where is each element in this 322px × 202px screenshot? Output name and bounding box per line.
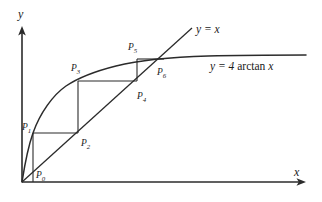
point-label-p0: P0 [35,170,46,182]
figure-container: y x y = x y = 4 arctan x P0 P1 P2 P3 P4 [0,0,322,202]
curve-equation-function: arctan [237,60,265,72]
diagonal-equation-label: y = x [195,23,221,36]
curve-equation-lhs: y = 4 [209,60,237,73]
curve-equation-rhs: x [265,60,274,72]
point-label-p5: P5 [127,42,138,54]
x-axis-label: x [293,165,300,179]
point-label-p6-subscript: 6 [163,72,167,79]
point-label-p4: P4 [136,91,147,103]
point-label-p6: P6 [156,67,167,79]
point-label-p5-subscript: 5 [134,47,138,54]
y-axis-label: y [17,7,24,21]
point-label-p1: P1 [21,122,31,134]
point-label-p4-subscript: 4 [143,96,147,103]
point-label-p0-subscript: 0 [42,175,46,182]
point-label-p3: P3 [70,63,81,75]
curve-equation-label: y = 4 arctan x [209,60,274,73]
axes-group [18,26,306,186]
cobweb-diagram: y x y = x y = 4 arctan x P0 P1 P2 P3 P4 [0,0,322,202]
point-label-p2: P2 [80,138,91,150]
point-label-p1-subscript: 1 [28,127,31,134]
cobweb-path-group [33,59,164,182]
point-label-p2-subscript: 2 [87,143,91,150]
point-label-p3-subscript: 3 [76,68,81,75]
